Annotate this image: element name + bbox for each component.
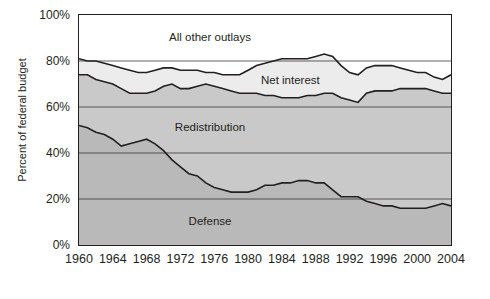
series-label-defense: Defense (189, 215, 232, 227)
x-tick-label: 2004 (431, 253, 471, 266)
y-tick-label: 40% (26, 147, 70, 159)
y-tick-label: 0% (26, 239, 70, 251)
area-chart-svg (79, 15, 451, 245)
y-axis-title: Percent of federal budget (2, 14, 20, 246)
y-tick-label: 60% (26, 101, 70, 113)
series-label-redistribution: Redistribution (175, 121, 245, 133)
y-tick-label: 80% (26, 55, 70, 67)
y-tick-label: 20% (26, 193, 70, 205)
plot-area (78, 14, 452, 246)
series-label-net-interest: Net interest (261, 74, 320, 86)
series-label-all-other-outlays: All other outlays (169, 31, 251, 43)
chart-container: Percent of federal budget 0%20%40%60%80%… (0, 0, 490, 299)
y-tick-label: 100% (26, 9, 70, 21)
